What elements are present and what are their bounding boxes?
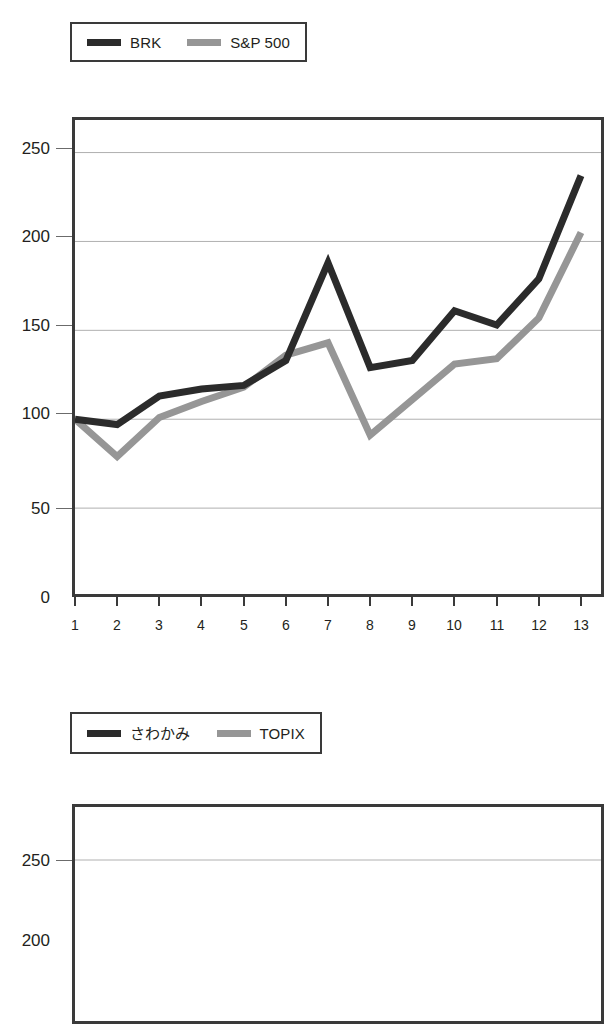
legend-brk-sp500: BRK S&P 500 <box>70 22 307 62</box>
xtick-mark-2 <box>116 597 118 606</box>
plot-clip-chart2 <box>72 804 604 1024</box>
xtick-mark-8 <box>369 597 371 606</box>
xtick-mark-6 <box>285 597 287 606</box>
xtick-label-10: 10 <box>434 618 474 632</box>
ytick-label-150: 150 <box>2 317 50 334</box>
xtick-mark-11 <box>496 597 498 606</box>
xtick-label-12: 12 <box>519 618 559 632</box>
legend-label-brk: BRK <box>130 35 161 50</box>
legend-label-sp500: S&P 500 <box>230 35 290 50</box>
legend-sawakami-topix: さわかみ TOPIX <box>70 712 322 754</box>
xtick-mark-13 <box>580 597 582 606</box>
legend-swatch-brk <box>87 39 121 46</box>
ytick-mark-250-chart2 <box>56 860 72 861</box>
legend-label-sawakami: さわかみ <box>130 726 190 741</box>
legend-entry-sp500: S&P 500 <box>187 35 290 50</box>
xtick-mark-9 <box>411 597 413 606</box>
chart-svg-sawakami-topix <box>72 804 604 1024</box>
ytick-mark-200 <box>56 236 72 237</box>
plot-clip <box>72 117 604 597</box>
ytick-mark-250 <box>56 148 72 149</box>
xtick-label-13: 13 <box>561 618 601 632</box>
xtick-label-2: 2 <box>97 618 137 632</box>
ytick-mark-50 <box>56 508 72 509</box>
ytick-label-250-chart2: 250 <box>2 852 50 869</box>
xtick-mark-1 <box>74 597 76 606</box>
xtick-mark-10 <box>453 597 455 606</box>
legend-swatch-sawakami <box>87 730 121 737</box>
xtick-label-7: 7 <box>308 618 348 632</box>
ytick-label-200: 200 <box>2 228 50 245</box>
legend-entry-topix: TOPIX <box>217 726 305 741</box>
xtick-mark-3 <box>158 597 160 606</box>
plot-area-sawakami-topix <box>72 804 604 1024</box>
ytick-label-50: 50 <box>2 500 50 517</box>
xtick-label-1: 1 <box>55 618 95 632</box>
plot-area-brk-sp500 <box>72 117 604 597</box>
xtick-label-8: 8 <box>350 618 390 632</box>
xtick-mark-7 <box>327 597 329 606</box>
legend-label-topix: TOPIX <box>260 726 305 741</box>
xtick-label-4: 4 <box>181 618 221 632</box>
ytick-mark-150 <box>56 325 72 326</box>
ytick-label-0: 0 <box>2 589 50 606</box>
series-line-brk <box>75 176 581 425</box>
ytick-mark-100 <box>56 413 72 414</box>
xtick-label-9: 9 <box>392 618 432 632</box>
xtick-label-11: 11 <box>477 618 517 632</box>
xtick-mark-12 <box>538 597 540 606</box>
ytick-label-250: 250 <box>2 140 50 157</box>
chart-svg-brk-sp500 <box>72 117 604 597</box>
ytick-label-200-chart2: 200 <box>2 932 50 949</box>
xtick-mark-5 <box>243 597 245 606</box>
xtick-label-3: 3 <box>139 618 179 632</box>
xtick-mark-4 <box>200 597 202 606</box>
legend-entry-sawakami: さわかみ <box>87 726 190 741</box>
xtick-label-6: 6 <box>266 618 306 632</box>
legend-swatch-topix <box>217 730 251 737</box>
legend-swatch-sp500 <box>187 39 221 46</box>
xtick-label-5: 5 <box>224 618 264 632</box>
ytick-label-100: 100 <box>2 405 50 422</box>
legend-entry-brk: BRK <box>87 35 161 50</box>
